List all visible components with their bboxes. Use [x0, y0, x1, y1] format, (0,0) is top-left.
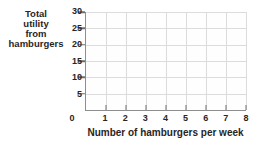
x-tick-label: 2 [123, 114, 128, 123]
x-tick-label: 7 [223, 114, 228, 123]
y-tick-label: 25 [58, 24, 82, 33]
x-tick-mark [126, 105, 127, 110]
x-tick-label: 1 [103, 114, 108, 123]
gridline-vertical [226, 12, 227, 110]
x-tick-mark [166, 105, 167, 110]
x-tick-mark [146, 105, 147, 110]
y-tick-label: 5 [58, 90, 82, 99]
x-tick-label: 8 [243, 114, 248, 123]
total-utility-chart: Total utility from hamburgers 5101520253… [0, 0, 255, 150]
x-axis-title: Number of hamburgers per week [85, 127, 246, 138]
x-tick-mark [246, 105, 247, 110]
plot-area [85, 12, 246, 111]
y-tick-label: 20 [58, 40, 82, 49]
y-tick-label: 10 [58, 73, 82, 82]
gridline-vertical [166, 12, 167, 110]
gridline-vertical [186, 12, 187, 110]
x-tick-label: 0 [69, 114, 74, 123]
gridline-vertical [146, 12, 147, 110]
x-tick-label: 3 [143, 114, 148, 123]
x-tick-mark [186, 105, 187, 110]
gridline-vertical [126, 12, 127, 110]
x-tick-label: 5 [183, 114, 188, 123]
gridline-vertical [246, 12, 247, 110]
gridline-vertical [106, 12, 107, 110]
x-tick-mark [206, 105, 207, 110]
y-tick-label: 15 [58, 57, 82, 66]
x-tick-mark [226, 105, 227, 110]
y-tick-label: 30 [58, 7, 82, 16]
x-tick-label: 6 [203, 114, 208, 123]
x-tick-mark [106, 105, 107, 110]
x-tick-label: 4 [163, 114, 168, 123]
gridline-vertical [206, 12, 207, 110]
